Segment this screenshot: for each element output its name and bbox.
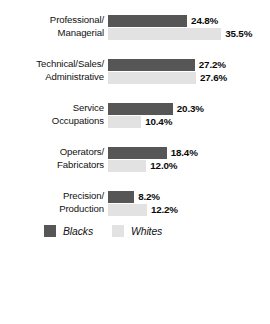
- category-label-line1: Technical/Sales/: [36, 58, 104, 69]
- category-label-line1: Precision/: [63, 190, 104, 201]
- bar-value-blacks: 27.2%: [199, 59, 226, 72]
- bar-group: Technical/Sales/ Administrative 27.2% 27…: [0, 58, 270, 86]
- bar-group: Professional/ Managerial 24.8% 35.5%: [0, 14, 270, 42]
- bar-whites: [108, 28, 221, 40]
- category-label-line2: Production: [0, 202, 104, 215]
- bar-blacks: [108, 15, 187, 27]
- legend-item-whites: Whites: [112, 224, 162, 238]
- bar-blacks: [108, 147, 167, 159]
- bar-whites: [108, 72, 196, 84]
- bar-value-blacks: 20.3%: [177, 103, 204, 116]
- grouped-bar-chart: Professional/ Managerial 24.8% 35.5% Tec…: [0, 0, 270, 324]
- bar-blacks: [108, 191, 134, 203]
- bar-group: Service Occupations 20.3% 10.4%: [0, 102, 270, 130]
- bar-group: Precision/ Production 8.2% 12.2%: [0, 190, 270, 218]
- category-label-line2: Fabricators: [0, 158, 104, 171]
- chart-plot-area: Professional/ Managerial 24.8% 35.5% Tec…: [0, 0, 270, 222]
- chart-legend: Blacks Whites: [0, 224, 270, 244]
- legend-item-blacks: Blacks: [44, 224, 93, 238]
- category-label-line1: Service: [73, 102, 104, 113]
- category-label-line2: Administrative: [0, 70, 104, 83]
- category-label: Operators/ Fabricators: [0, 145, 104, 172]
- category-label: Professional/ Managerial: [0, 13, 104, 40]
- bar-value-whites: 12.0%: [150, 160, 177, 173]
- bar-blacks: [108, 103, 173, 115]
- category-label-line2: Occupations: [0, 114, 104, 127]
- bar-value-blacks: 8.2%: [138, 191, 160, 204]
- category-label-line2: Managerial: [0, 26, 104, 39]
- bar-value-whites: 10.4%: [145, 116, 172, 129]
- bar-value-whites: 35.5%: [225, 28, 252, 41]
- category-label-line1: Operators/: [60, 146, 104, 157]
- bar-whites: [108, 160, 146, 172]
- bar-value-blacks: 24.8%: [191, 15, 218, 28]
- category-label: Service Occupations: [0, 101, 104, 128]
- legend-swatch-blacks-icon: [44, 225, 56, 237]
- category-label: Precision/ Production: [0, 189, 104, 216]
- bar-value-whites: 12.2%: [151, 204, 178, 217]
- bar-value-blacks: 18.4%: [171, 147, 198, 160]
- bar-group: Operators/ Fabricators 18.4% 12.0%: [0, 146, 270, 174]
- legend-label-whites: Whites: [131, 226, 162, 237]
- legend-swatch-whites-icon: [112, 225, 124, 237]
- bar-whites: [108, 204, 147, 216]
- bar-whites: [108, 116, 141, 128]
- category-label: Technical/Sales/ Administrative: [0, 57, 104, 84]
- category-label-line1: Professional/: [50, 14, 104, 25]
- bar-blacks: [108, 59, 195, 71]
- legend-label-blacks: Blacks: [63, 226, 93, 237]
- bar-value-whites: 27.6%: [200, 72, 227, 85]
